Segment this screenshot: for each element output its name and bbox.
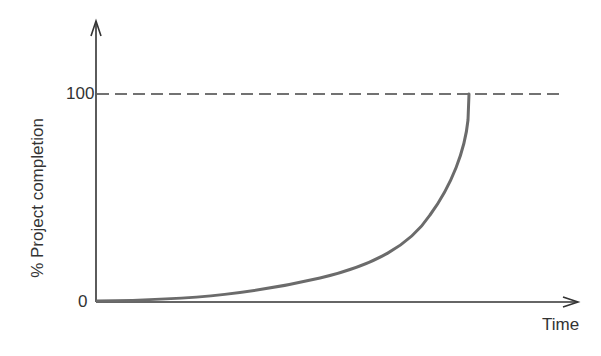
y-tick-100: 100 — [66, 85, 94, 102]
x-axis-label: Time — [542, 316, 579, 333]
completion-curve — [97, 94, 469, 301]
y-axis-label: % Project completion — [29, 118, 46, 278]
y-tick-0: 0 — [78, 293, 87, 310]
chart-canvas — [0, 0, 601, 356]
